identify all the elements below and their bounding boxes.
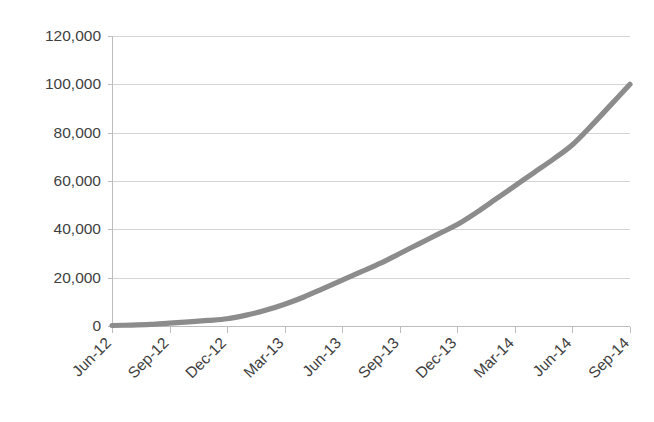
line-chart: 020,00040,00060,00080,000100,000120,000 … [0,0,654,422]
y-tick-label: 80,000 [54,124,102,141]
y-tick-label: 40,000 [54,220,102,237]
y-tick-label: 60,000 [54,172,102,189]
y-tick-label: 100,000 [45,75,101,92]
y-tick-label: 20,000 [54,269,102,286]
y-tick-label: 120,000 [45,27,101,44]
y-tick-label: 0 [92,317,101,334]
chart-canvas: 020,00040,00060,00080,000100,000120,000 … [0,0,654,422]
